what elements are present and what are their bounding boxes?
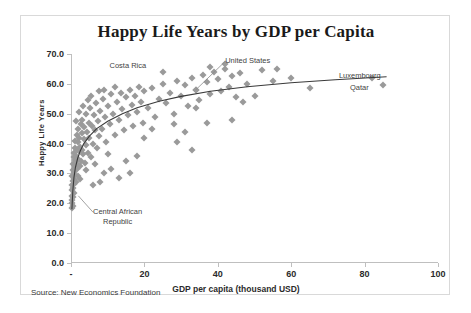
annotation-label: Luxembourg: [339, 71, 381, 80]
annotation-label: Qatar: [350, 83, 369, 92]
y-tick-label: 60.0: [46, 79, 64, 89]
plot-area: 0.010.020.030.040.050.060.070.0 -2040608…: [71, 54, 438, 263]
x-tick-label: 60: [286, 269, 296, 279]
y-tick-label: 0.0: [51, 258, 64, 268]
x-tick: [438, 263, 439, 267]
x-tick-label: 100: [430, 269, 445, 279]
annotation-label: United States: [225, 56, 270, 65]
x-tick-label: 20: [139, 269, 149, 279]
y-tick-label: 70.0: [46, 49, 64, 59]
x-tick-label: 40: [213, 269, 223, 279]
y-tick-label: 40.0: [46, 139, 64, 149]
y-tick-label: 20.0: [46, 198, 64, 208]
x-tick: [144, 263, 145, 267]
x-tick: [365, 263, 366, 267]
y-tick-label: 10.0: [46, 228, 64, 238]
x-tick: [71, 263, 72, 267]
x-tick-label: 80: [360, 269, 370, 279]
x-tick-label: -: [70, 269, 73, 279]
annotation-label: Central African Republic: [93, 207, 142, 226]
annotation-leader-line: [196, 61, 225, 89]
trend-and-leaders: [71, 54, 438, 263]
annotation-label: Costa Rica: [110, 61, 147, 70]
annotation-leader-line: [78, 196, 93, 212]
y-tick-label: 50.0: [46, 109, 64, 119]
trend-line: [72, 77, 387, 210]
x-tick: [291, 263, 292, 267]
x-tick: [218, 263, 219, 267]
chart-card: Happy Life Years by GDP per Capita Happy…: [20, 15, 450, 295]
source-note: Source: New Economics Foundation: [31, 288, 160, 297]
y-axis-title: Happy Life Years: [37, 99, 46, 166]
y-tick-label: 30.0: [46, 168, 64, 178]
chart-title: Happy Life Years by GDP per Capita: [21, 22, 451, 42]
